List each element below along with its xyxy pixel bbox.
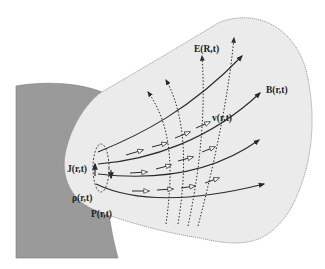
label-pressure: P(r,t) [91, 209, 112, 220]
label-magnetic-field: B(r,t) [266, 85, 288, 96]
label-charge-density: ρ(r,t) [72, 193, 92, 204]
label-current-density: J(r,t) [67, 164, 87, 175]
diagram-canvas: E(R,t) B(r,t) v(r,t) J(r,t) ρ(r,t) P(r,t… [0, 0, 325, 269]
label-velocity: v(r,t) [212, 113, 232, 124]
label-electric-field: E(R,t) [194, 44, 219, 55]
